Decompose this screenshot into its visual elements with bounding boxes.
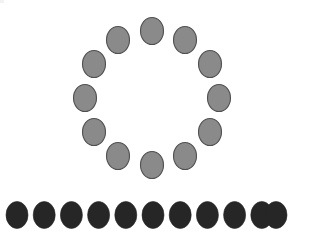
- stimulus-canvas: [0, 0, 312, 251]
- gray-ellipse-11: [83, 51, 106, 78]
- gray-ellipse-5: [199, 119, 222, 146]
- gray-ellipse-8: [107, 143, 130, 170]
- gray-ellipse-4: [208, 85, 231, 112]
- gray-ellipse-3: [199, 51, 222, 78]
- black-ellipse-6: [142, 202, 164, 229]
- black-ellipse-4: [88, 202, 110, 229]
- gray-ellipse-10: [74, 85, 97, 112]
- black-ellipse-7: [169, 202, 191, 229]
- black-ellipse-8: [196, 202, 218, 229]
- black-ellipse-2: [33, 202, 55, 229]
- gray-ellipse-9: [83, 119, 106, 146]
- black-ellipse-3: [60, 202, 82, 229]
- gray-ellipse-1: [141, 18, 164, 45]
- stimulus-svg: [0, 0, 312, 251]
- corner-artifact-fragment: [0, 0, 4, 3]
- black-ellipse-9: [224, 202, 246, 229]
- black-ellipse-11: [265, 202, 287, 229]
- gray-ellipse-6: [174, 143, 197, 170]
- black-ellipse-5: [115, 202, 137, 229]
- gray-ellipse-2: [174, 27, 197, 54]
- black-ellipse-1: [6, 202, 28, 229]
- gray-ellipse-12: [107, 27, 130, 54]
- gray-ellipse-7: [141, 152, 164, 179]
